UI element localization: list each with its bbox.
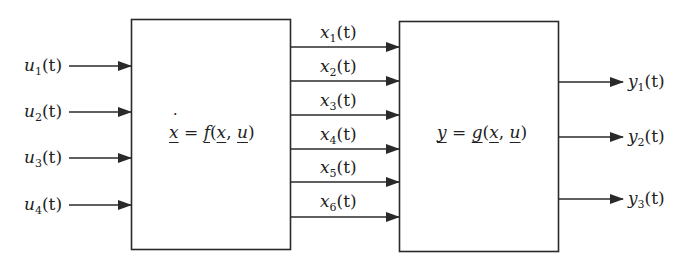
input-var: u bbox=[24, 194, 35, 214]
output-arg: (t) bbox=[645, 71, 665, 91]
input-label-1: u1(t) bbox=[24, 55, 62, 75]
state-subscript: 2 bbox=[330, 66, 337, 79]
input-subscript: 2 bbox=[35, 111, 42, 124]
input-subscript: 4 bbox=[35, 204, 42, 217]
state-arg: (t) bbox=[337, 191, 357, 211]
state-var: x bbox=[320, 22, 330, 42]
state-derivative: x bbox=[169, 122, 179, 142]
state-arg: (t) bbox=[337, 90, 357, 110]
output-subscript: 1 bbox=[638, 81, 645, 94]
state-var: x bbox=[320, 157, 330, 177]
arg-input: u bbox=[510, 122, 521, 142]
state-label-3: x3(t) bbox=[320, 90, 357, 110]
equals-sign: = bbox=[447, 122, 472, 142]
output-arg: (t) bbox=[645, 126, 665, 146]
state-subscript: 4 bbox=[330, 134, 337, 147]
state-subscript: 3 bbox=[330, 100, 337, 113]
state-var: x bbox=[320, 124, 330, 144]
input-label-4: u4(t) bbox=[24, 194, 62, 214]
input-subscript: 3 bbox=[35, 157, 42, 170]
state-label-1: x1(t) bbox=[320, 22, 357, 42]
input-arg: (t) bbox=[42, 194, 62, 214]
state-equation: x = f(x, u) bbox=[169, 122, 255, 142]
equals-sign: = bbox=[179, 122, 204, 142]
input-var: u bbox=[24, 101, 35, 121]
output-label-2: y2(t) bbox=[628, 126, 665, 146]
output-var: y bbox=[628, 188, 638, 208]
state-var: x bbox=[320, 90, 330, 110]
state-subscript: 1 bbox=[330, 32, 337, 45]
state-var: x bbox=[320, 56, 330, 76]
comma: , bbox=[499, 122, 510, 142]
input-arg: (t) bbox=[42, 101, 62, 121]
state-label-6: x6(t) bbox=[320, 191, 357, 211]
state-arg: (t) bbox=[337, 56, 357, 76]
function-name: g bbox=[472, 122, 483, 142]
output-subscript: 2 bbox=[638, 136, 645, 149]
state-label-5: x5(t) bbox=[320, 157, 357, 177]
output-var: y bbox=[628, 71, 638, 91]
comma: , bbox=[226, 122, 237, 142]
input-label-3: u3(t) bbox=[24, 147, 62, 167]
state-arg: (t) bbox=[337, 124, 357, 144]
arg-input: u bbox=[237, 122, 248, 142]
paren-close: ) bbox=[521, 122, 528, 142]
input-label-2: u2(t) bbox=[24, 101, 62, 121]
output-equation: y = g(x, u) bbox=[437, 122, 527, 142]
arg-state: x bbox=[489, 122, 499, 142]
state-label-4: x4(t) bbox=[320, 124, 357, 144]
output-var: y bbox=[437, 122, 447, 142]
input-arg: (t) bbox=[42, 55, 62, 75]
output-label-1: y1(t) bbox=[628, 71, 665, 91]
output-label-3: y3(t) bbox=[628, 188, 665, 208]
output-subscript: 3 bbox=[638, 198, 645, 211]
state-var: x bbox=[320, 191, 330, 211]
state-arg: (t) bbox=[337, 22, 357, 42]
input-arg: (t) bbox=[42, 147, 62, 167]
state-subscript: 5 bbox=[330, 167, 337, 180]
output-arg: (t) bbox=[645, 188, 665, 208]
paren-open: ( bbox=[210, 122, 217, 142]
output-var: y bbox=[628, 126, 638, 146]
input-var: u bbox=[24, 147, 35, 167]
arg-state: x bbox=[217, 122, 227, 142]
state-arg: (t) bbox=[337, 157, 357, 177]
paren-close: ) bbox=[248, 122, 255, 142]
input-var: u bbox=[24, 55, 35, 75]
state-label-2: x2(t) bbox=[320, 56, 357, 76]
state-subscript: 6 bbox=[330, 201, 337, 214]
input-subscript: 1 bbox=[35, 65, 42, 78]
